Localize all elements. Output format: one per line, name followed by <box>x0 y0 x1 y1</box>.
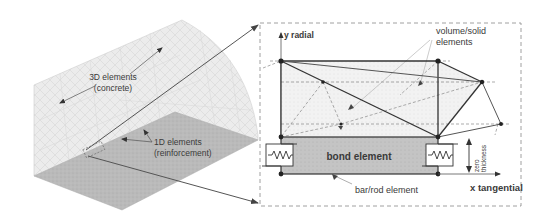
volume-label-line1: volume/solid <box>436 26 486 36</box>
mesh-3d-model: 3D elements (concrete) 1D elements (rein… <box>34 20 258 210</box>
y-axis-label: y radial <box>284 30 314 40</box>
bar-rod-label: bar/rod element <box>355 185 419 195</box>
label-3d-elements: 3D elements <box>89 72 137 82</box>
diagram-canvas: 3D elements (concrete) 1D elements (rein… <box>0 0 547 224</box>
volume-label-line2: elements <box>436 37 473 47</box>
detail-panel: y radial <box>260 23 523 206</box>
bond-element-label: bond element <box>326 151 392 162</box>
thickness-label-zero: zero <box>473 159 480 172</box>
x-axis-label: x tangential <box>470 182 523 193</box>
label-1d-elements: 1D elements <box>154 137 202 147</box>
spring-left <box>262 144 297 166</box>
spring-right <box>422 144 458 166</box>
label-reinforcement: (reinforcement) <box>154 148 212 158</box>
thickness-label-thickness: thickness <box>480 144 487 172</box>
label-concrete: (concrete) <box>94 83 132 93</box>
